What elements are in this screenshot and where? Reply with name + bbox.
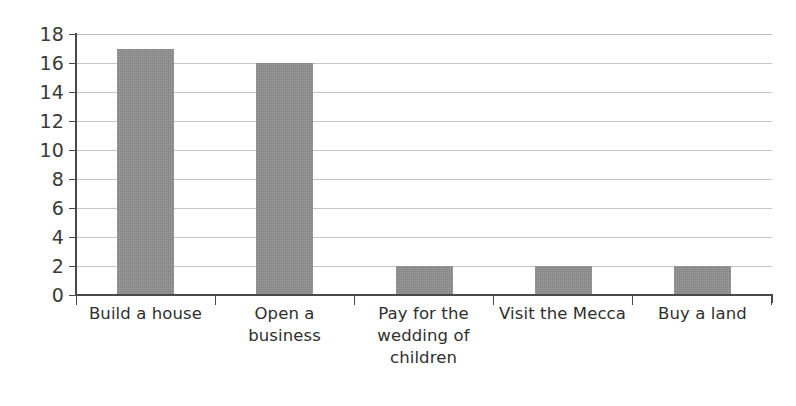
x-label-pay-for-the-wedding-of-children: Pay for thewedding ofchildren [354, 303, 493, 369]
x-label-line: Buy a land [633, 303, 772, 325]
bar-buy-a-land[interactable] [674, 266, 731, 295]
x-label-buy-a-land: Buy a land [633, 303, 772, 325]
x-label-line: children [354, 347, 493, 369]
x-label-line: Open a [215, 303, 354, 325]
gridline-14 [76, 92, 772, 93]
x-label-open-a-business: Open abusiness [215, 303, 354, 347]
x-label-line: Visit the Mecca [491, 303, 634, 325]
y-tick-label-16: 16 [2, 54, 64, 73]
x-label-line: Pay for the [354, 303, 493, 325]
gridline-8 [76, 179, 772, 180]
y-tick-label-10: 10 [2, 141, 64, 160]
bar-build-a-house[interactable] [117, 49, 174, 296]
y-axis-line [75, 33, 77, 296]
x-label-visit-the-mecca: Visit the Mecca [491, 303, 634, 325]
gridline-18 [76, 34, 772, 35]
x-label-line: wedding of [354, 325, 493, 347]
y-tick-label-6: 6 [2, 199, 64, 218]
y-tick-label-14: 14 [2, 83, 64, 102]
gridline-10 [76, 150, 772, 151]
y-tick-label-12: 12 [2, 112, 64, 131]
x-axis-category-labels: Build a house Open abusiness Pay for the… [76, 303, 772, 403]
y-tick-label-0: 0 [2, 286, 64, 305]
bar-visit-the-mecca[interactable] [535, 266, 592, 295]
gridline-12 [76, 121, 772, 122]
gridline-6 [76, 208, 772, 209]
bar-pay-for-the-wedding-of-children[interactable] [396, 266, 453, 295]
y-axis-tick-labels: 18 16 14 12 10 8 6 4 2 0 [0, 0, 64, 406]
bar-chart: 18 16 14 12 10 8 6 4 2 0 [0, 0, 796, 406]
plot-area [76, 34, 772, 295]
gridline-16 [76, 63, 772, 64]
y-tick-label-8: 8 [2, 170, 64, 189]
x-label-line: Build a house [76, 303, 215, 325]
y-tick-label-2: 2 [2, 257, 64, 276]
x-axis-line [75, 294, 773, 296]
x-label-build-a-house: Build a house [76, 303, 215, 325]
gridline-4 [76, 237, 772, 238]
y-tick-label-4: 4 [2, 228, 64, 247]
x-label-line: business [215, 325, 354, 347]
y-tick-label-18: 18 [2, 25, 64, 44]
bar-open-a-business[interactable] [256, 63, 313, 295]
